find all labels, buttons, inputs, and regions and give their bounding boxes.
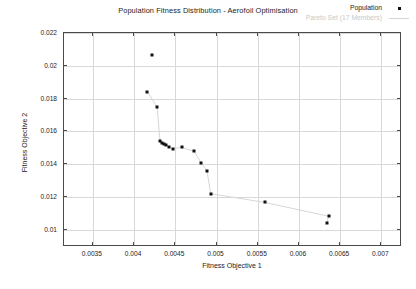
x-tick-mark <box>216 242 217 246</box>
x-tick-mark <box>339 242 340 246</box>
y-tick-mark-right <box>397 98 401 99</box>
x-tick-mark-top <box>133 32 134 36</box>
x-tick-mark <box>298 242 299 246</box>
data-point <box>263 201 266 204</box>
y-tick-mark <box>63 65 67 66</box>
y-tick-mark-right <box>397 65 401 66</box>
data-point <box>167 145 170 148</box>
y-tick-label: 0.01 <box>44 225 57 232</box>
data-point <box>206 169 209 172</box>
y-tick-mark-right <box>397 229 401 230</box>
data-point <box>325 222 328 225</box>
x-tick-mark <box>174 242 175 246</box>
data-point <box>146 90 149 93</box>
x-tick-mark-top <box>339 32 340 36</box>
y-tick-mark <box>63 98 67 99</box>
y-tick-label: 0.016 <box>40 127 57 134</box>
x-tick-mark-top <box>174 32 175 36</box>
legend-key-pareto <box>388 18 410 19</box>
data-point <box>193 150 196 153</box>
x-tick-mark <box>133 242 134 246</box>
x-tick-label: 0.007 <box>372 250 389 257</box>
y-tick-label: 0.02 <box>44 61 57 68</box>
x-axis-title: Fitness Objective 1 <box>63 262 401 269</box>
y-tick-label: 0.018 <box>40 94 57 101</box>
y-tick-label: 0.022 <box>40 29 57 36</box>
legend-dot-icon <box>398 7 401 10</box>
data-point <box>156 106 159 109</box>
x-tick-label: 0.004 <box>125 250 142 257</box>
chart-legend: Population Pareto Set (17 Members) <box>300 1 414 25</box>
y-tick-label: 0.014 <box>40 160 57 167</box>
data-point <box>171 147 174 150</box>
legend-label-pareto: Pareto Set (17 Members) <box>306 13 382 23</box>
y-tick-mark-right <box>397 163 401 164</box>
legend-item-pareto: Pareto Set (17 Members) <box>306 13 410 23</box>
x-tick-mark-top <box>257 32 258 36</box>
x-tick-mark <box>257 242 258 246</box>
legend-line-icon <box>389 18 409 19</box>
data-point <box>200 162 203 165</box>
x-tick-mark-top <box>216 32 217 36</box>
y-tick-mark-right <box>397 130 401 131</box>
y-axis-title: Fitness Objective 2 <box>21 73 28 213</box>
y-tick-mark-right <box>397 32 401 33</box>
x-tick-mark <box>92 242 93 246</box>
chart-figure: Population Fitness Distribution - Aerofo… <box>0 0 416 289</box>
x-tick-mark-top <box>92 32 93 36</box>
y-tick-label: 0.012 <box>40 192 57 199</box>
legend-label-population: Population <box>350 3 382 13</box>
data-point <box>209 192 212 195</box>
x-tick-label: 0.0055 <box>247 250 267 257</box>
y-tick-mark <box>63 229 67 230</box>
plot-area <box>63 32 401 246</box>
data-point <box>180 146 183 149</box>
legend-item-population: Population <box>306 3 410 13</box>
y-tick-mark <box>63 163 67 164</box>
legend-key-population <box>388 7 410 10</box>
x-tick-label: 0.0065 <box>329 250 349 257</box>
x-tick-mark-top <box>380 32 381 36</box>
y-tick-mark <box>63 32 67 33</box>
x-tick-label: 0.0035 <box>82 250 102 257</box>
x-tick-label: 0.005 <box>207 250 224 257</box>
y-tick-mark <box>63 196 67 197</box>
y-tick-mark-right <box>397 196 401 197</box>
data-point <box>151 54 154 57</box>
x-tick-label: 0.0045 <box>164 250 184 257</box>
data-point <box>327 215 330 218</box>
x-tick-mark <box>380 242 381 246</box>
x-tick-label: 0.006 <box>290 250 307 257</box>
pareto-set-line <box>64 33 401 246</box>
y-tick-mark <box>63 130 67 131</box>
x-tick-mark-top <box>298 32 299 36</box>
